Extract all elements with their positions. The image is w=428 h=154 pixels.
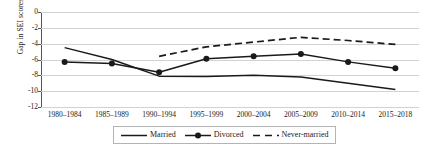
legend-swatch-line-icon xyxy=(185,131,211,140)
legend-swatch-line-icon xyxy=(121,131,147,140)
line-chart: Gap in SEI scores 0-2-4-6-8-10-12 1980–1… xyxy=(0,0,428,154)
y-tick-label: -4 xyxy=(18,40,38,48)
y-tick-label: -6 xyxy=(18,56,38,64)
legend-swatch-dashed-line-icon xyxy=(253,131,279,140)
y-tickmark xyxy=(38,107,41,108)
y-tick-label: -8 xyxy=(18,71,38,79)
legend-label: Never-married xyxy=(282,131,329,139)
gridline xyxy=(41,107,419,108)
data-point-marker xyxy=(109,60,115,66)
plot-area xyxy=(41,12,419,107)
x-tick-label: 2015–2018 xyxy=(360,110,428,119)
data-point-marker xyxy=(156,69,162,75)
legend-label: Divorced xyxy=(214,131,244,139)
y-tick-label: 0 xyxy=(18,8,38,16)
data-point-marker xyxy=(62,59,68,65)
data-point-marker xyxy=(203,56,209,62)
legend-item-never-married[interactable]: Never-married xyxy=(253,131,329,140)
legend-item-divorced[interactable]: Divorced xyxy=(185,131,244,140)
data-point-marker xyxy=(345,59,351,65)
legend-item-married[interactable]: Married xyxy=(121,131,176,140)
data-point-marker xyxy=(298,51,304,57)
data-point-marker xyxy=(392,65,398,71)
series-layer xyxy=(41,12,419,107)
legend-label: Married xyxy=(150,131,176,139)
x-axis-tick-labels: 1980–19841985–19891990–19941995–19992000… xyxy=(41,110,419,124)
series-line-married xyxy=(65,48,396,90)
series-line-never-married xyxy=(159,37,395,56)
y-axis-tick-labels: 0-2-4-6-8-10-12 xyxy=(18,0,38,120)
legend: MarriedDivorcedNever-married xyxy=(113,126,336,144)
y-tick-label: -2 xyxy=(18,24,38,32)
data-point-marker xyxy=(251,53,257,59)
y-tick-label: -10 xyxy=(18,87,38,95)
